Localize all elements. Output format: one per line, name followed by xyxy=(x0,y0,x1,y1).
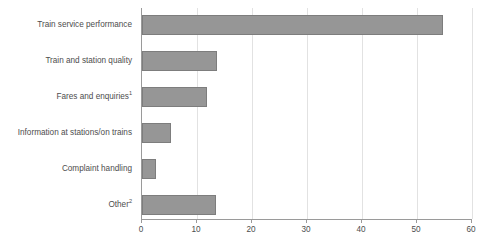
x-tick xyxy=(416,219,417,223)
x-tick xyxy=(251,219,252,223)
bar xyxy=(142,195,216,215)
category-label-text: Fares and enquiries xyxy=(57,92,129,101)
gridline-10 xyxy=(197,8,198,219)
bar xyxy=(142,51,217,71)
footnote-marker: 2 xyxy=(129,198,132,204)
category-label: Other2 xyxy=(0,200,132,210)
bar xyxy=(142,123,171,143)
x-tick-label: 30 xyxy=(291,225,321,234)
bar-chart: Train service performanceTrain and stati… xyxy=(0,0,484,242)
gridline-50 xyxy=(417,8,418,219)
category-label: Train service performance xyxy=(0,20,132,30)
x-tick-label: 60 xyxy=(456,225,484,234)
category-axis-labels: Train service performanceTrain and stati… xyxy=(0,0,136,219)
category-label: Information at stations/on trains xyxy=(0,128,132,138)
x-tick-label: 20 xyxy=(236,225,266,234)
x-tick-label: 10 xyxy=(181,225,211,234)
footnote-marker: 1 xyxy=(129,90,132,96)
x-tick-label: 50 xyxy=(401,225,431,234)
gridline-30 xyxy=(307,8,308,219)
gridline-60 xyxy=(472,8,473,219)
category-label-text: Train service performance xyxy=(37,20,132,29)
x-tick xyxy=(361,219,362,223)
x-tick-label: 40 xyxy=(346,225,376,234)
bar xyxy=(142,87,207,107)
plot-area xyxy=(142,8,472,219)
x-tick xyxy=(306,219,307,223)
category-label-text: Complaint handling xyxy=(62,164,132,173)
x-tick xyxy=(471,219,472,223)
category-label: Fares and enquiries1 xyxy=(0,92,132,102)
y-axis-line xyxy=(141,8,142,219)
category-label-text: Information at stations/on trains xyxy=(18,128,132,137)
gridline-20 xyxy=(252,8,253,219)
x-tick xyxy=(196,219,197,223)
category-label: Train and station quality xyxy=(0,56,132,66)
x-tick xyxy=(141,219,142,223)
bar xyxy=(142,15,443,35)
x-tick-label: 0 xyxy=(126,225,156,234)
category-label: Complaint handling xyxy=(0,164,132,174)
category-label-text: Train and station quality xyxy=(45,56,132,65)
gridline-40 xyxy=(362,8,363,219)
bar xyxy=(142,159,156,179)
category-label-text: Other xyxy=(108,200,128,209)
